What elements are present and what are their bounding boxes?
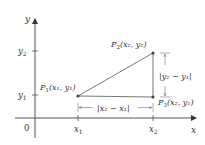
x1-label: x1 [74, 124, 83, 135]
hypotenuse-p1-p2 [78, 53, 153, 96]
point-p2 [151, 51, 154, 54]
horizontal-distance-label: |x₂ − x₁| [97, 104, 130, 113]
vertical-distance-label: |y₂ − y₁| [159, 72, 192, 81]
y1-label: y1 [17, 90, 27, 101]
x2-label: x2 [149, 124, 158, 135]
distance-formula-diagram: y x 0 y2 y1 x1 x2 P1(x₁, y₁) P2(x₂, y₂) … [0, 0, 205, 145]
y2-label: y2 [17, 46, 27, 57]
origin-label: 0 [24, 123, 29, 133]
diagram-canvas: y x 0 y2 y1 x1 x2 P1(x₁, y₁) P2(x₂, y₂) … [0, 0, 205, 145]
x-axis-label: x [191, 125, 196, 135]
point-p1 [76, 94, 79, 97]
p2-label: P2(x₂, y₂) [110, 40, 147, 50]
leg-p1-p3 [78, 96, 153, 97]
y-axis-label: y [24, 14, 31, 24]
point-p3 [151, 95, 154, 98]
p3-label: P3(x₂, y₁) [157, 98, 194, 108]
p1-label: P1(x₁, y₁) [39, 83, 76, 93]
